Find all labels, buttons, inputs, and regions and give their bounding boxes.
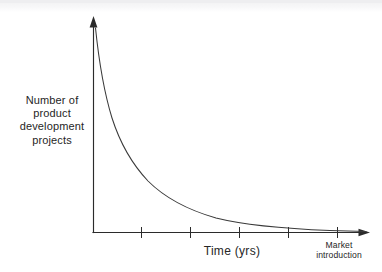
y-axis-label-line-1: Number of (6, 94, 98, 107)
figure-container: Number of product development projects T… (0, 0, 382, 272)
x-axis-label: Time (yrs) (182, 244, 282, 258)
y-axis-label: Number of product development projects (6, 94, 98, 147)
y-axis-arrowhead (90, 16, 98, 28)
y-axis-label-line-4: projects (6, 134, 98, 147)
y-axis-label-line-2: product (6, 107, 98, 120)
market-introduction-line-1: Market (304, 240, 374, 250)
y-axis-label-line-3: development (6, 120, 98, 133)
decay-curve (96, 28, 367, 232)
market-introduction-line-2: introduction (304, 250, 374, 260)
market-introduction-annotation: Market introduction (304, 240, 374, 261)
x-axis-arrowhead (359, 229, 371, 237)
